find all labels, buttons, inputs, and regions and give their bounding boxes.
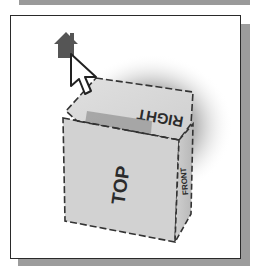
viewcube-panel: RIGHT TOP FRONT bbox=[10, 15, 241, 259]
viewcube-widget[interactable]: RIGHT TOP FRONT bbox=[11, 16, 240, 258]
top-strip-divider bbox=[19, 0, 250, 5]
home-icon[interactable] bbox=[53, 30, 79, 60]
